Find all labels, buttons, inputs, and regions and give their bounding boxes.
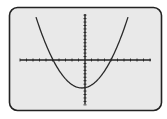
graph-canvas bbox=[0, 0, 167, 119]
calculator-screen bbox=[0, 0, 167, 119]
